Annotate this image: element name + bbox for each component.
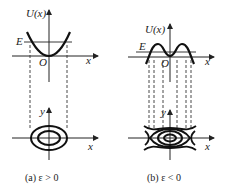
panel-b-phase: y x bbox=[128, 106, 214, 160]
potential-ylabel: U(x) bbox=[145, 23, 165, 36]
x-label: x bbox=[204, 55, 210, 67]
panel-a-phase: y x bbox=[12, 105, 98, 160]
origin-label: O bbox=[39, 56, 47, 68]
energy-label: E bbox=[138, 40, 146, 52]
phase-ylabel: y bbox=[39, 105, 45, 117]
panel-a-potential: U(x) E O x bbox=[12, 7, 98, 82]
energy-label: E bbox=[15, 35, 23, 47]
caption-b: (b) ε < 0 bbox=[147, 172, 181, 184]
diagram-canvas: U(x) E O x y x (a) ε > 0 U(x) E O x bbox=[0, 0, 226, 191]
x-label: x bbox=[85, 54, 91, 66]
panel-b-potential: U(x) E O x bbox=[128, 23, 214, 82]
phase-xlabel: x bbox=[204, 140, 210, 152]
caption-a: (a) ε > 0 bbox=[25, 172, 58, 184]
potential-ylabel: U(x) bbox=[26, 7, 46, 20]
phase-xlabel: x bbox=[87, 140, 93, 152]
origin-label: O bbox=[161, 57, 169, 69]
phase-ylabel: y bbox=[160, 106, 166, 118]
